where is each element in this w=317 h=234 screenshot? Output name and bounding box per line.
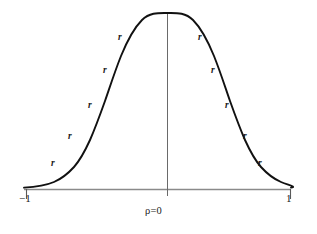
curve-annotation-right-3: r bbox=[225, 101, 229, 111]
curve-annotation-left-1: r bbox=[118, 33, 122, 43]
curve-annotation-left-5: r bbox=[51, 159, 55, 169]
axis-label-rho-zero: ρ=0 bbox=[145, 206, 162, 217]
curve-annotation-right-5: r bbox=[258, 159, 262, 169]
curve-annotation-right-2: r bbox=[211, 66, 215, 76]
curve-annotation-left-2: r bbox=[103, 66, 107, 76]
curve-annotation-left-4: r bbox=[68, 132, 72, 142]
curve-annotation-right-1: r bbox=[198, 33, 202, 43]
axis-tick-label-right: 1 bbox=[286, 193, 292, 204]
curve-annotation-right-4: r bbox=[243, 132, 247, 142]
plot-area bbox=[0, 0, 317, 234]
bell-curve-figure: −1 1 ρ=0 r r r r r r r r r r bbox=[0, 0, 317, 234]
curve-annotation-left-3: r bbox=[88, 101, 92, 111]
axis-tick-label-left: −1 bbox=[19, 193, 31, 204]
bell-curve-path bbox=[24, 13, 293, 188]
